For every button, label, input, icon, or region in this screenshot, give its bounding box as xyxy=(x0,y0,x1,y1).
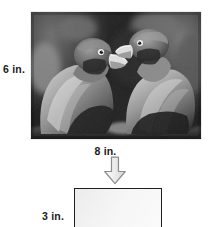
original-height-label: 6 in. xyxy=(3,63,25,75)
diagram-canvas: 6 in. xyxy=(0,0,211,227)
arrow-down-icon xyxy=(103,156,127,185)
resized-photo-placeholder xyxy=(74,188,162,227)
two-parrots-photo-graphic xyxy=(31,12,201,139)
resized-height-label: 3 in. xyxy=(42,210,64,222)
original-photo xyxy=(31,12,201,139)
arrow-down-glyph xyxy=(103,156,127,185)
